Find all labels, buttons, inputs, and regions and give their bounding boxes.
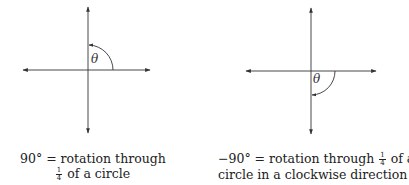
- theta-label-left: θ: [91, 52, 98, 66]
- right-figure: [246, 8, 376, 134]
- caption-left-line1: 90° = rotation through: [20, 151, 165, 166]
- caption-right-line2: circle in a clockwise direction: [218, 167, 406, 182]
- fraction-one-quarter: 14: [379, 152, 385, 167]
- theta-label-right: θ: [313, 72, 320, 86]
- caption-right-line1: −90° = rotation through 14 of a: [218, 151, 406, 167]
- caption-left-line2: 14 of a circle: [20, 166, 165, 182]
- left-figure: [23, 7, 150, 133]
- fraction-one-quarter: 14: [56, 167, 62, 182]
- caption-right: −90° = rotation through 14 of a circle i…: [218, 151, 406, 182]
- caption-left: 90° = rotation through 14 of a circle: [20, 151, 165, 182]
